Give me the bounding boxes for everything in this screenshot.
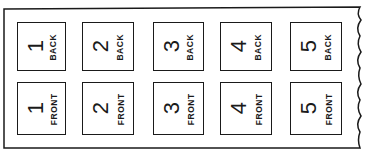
card-number: 3 bbox=[161, 40, 183, 52]
card-label: FRONT bbox=[50, 93, 59, 125]
card-front-4: 4 FRONT bbox=[220, 82, 272, 135]
card-back-2: 2 BACK bbox=[82, 22, 134, 71]
card-label: BACK bbox=[116, 34, 125, 61]
card-label: FRONT bbox=[187, 93, 196, 125]
card-number: 2 bbox=[90, 40, 112, 52]
card-label: BACK bbox=[186, 34, 195, 61]
card-number: 2 bbox=[90, 102, 112, 114]
card-front-3: 3 FRONT bbox=[153, 82, 204, 135]
card-front-1: 1 FRONT bbox=[17, 82, 66, 135]
card-back-1: 1 BACK bbox=[17, 22, 66, 71]
card-number: 3 bbox=[161, 102, 183, 114]
card-front-5: 5 FRONT bbox=[290, 82, 342, 135]
card-number: 5 bbox=[298, 102, 320, 114]
card-back-3: 3 BACK bbox=[153, 22, 204, 71]
card-label: BACK bbox=[49, 34, 58, 61]
card-label: FRONT bbox=[255, 93, 264, 125]
card-number: 5 bbox=[298, 40, 320, 52]
card-front-2: 2 FRONT bbox=[82, 82, 134, 135]
card-label: FRONT bbox=[117, 93, 126, 125]
card-number: 1 bbox=[25, 102, 47, 114]
card-number: 4 bbox=[228, 40, 250, 52]
card-label: FRONT bbox=[325, 93, 334, 125]
card-label: BACK bbox=[324, 34, 333, 61]
card-label: BACK bbox=[254, 34, 263, 61]
card-number: 1 bbox=[25, 40, 47, 52]
card-back-5: 5 BACK bbox=[290, 22, 342, 71]
card-back-4: 4 BACK bbox=[220, 22, 272, 71]
card-number: 4 bbox=[228, 102, 250, 114]
